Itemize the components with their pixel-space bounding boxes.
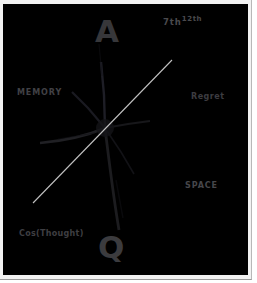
label-cos-thought: Cos(Thought) (19, 230, 84, 238)
label-memory: MEMORY (17, 89, 62, 97)
faint-ray-down (105, 128, 119, 230)
ordinal-superscript: 12th (182, 15, 202, 23)
plot-area: A Q 7th12th MEMORY Regret SPACE Cos(Thou… (3, 4, 248, 275)
label-regret: Regret (191, 93, 225, 101)
glyph-label-a: A (95, 16, 119, 47)
glyph-label-q: Q (98, 232, 124, 263)
faint-ray-left (40, 128, 105, 143)
figure-canvas: A Q 7th12th MEMORY Regret SPACE Cos(Thou… (0, 0, 257, 283)
label-space: SPACE (185, 182, 218, 190)
ordinal-base: 7th (163, 17, 182, 27)
ordinal-label: 7th12th (163, 16, 202, 26)
